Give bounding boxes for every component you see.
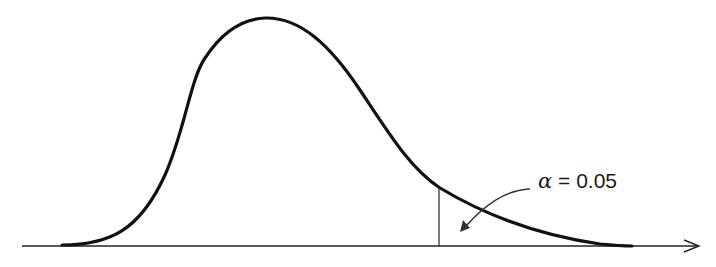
density-curve [62, 18, 632, 246]
alpha-value: 0.05 [576, 169, 617, 192]
distribution-diagram [0, 0, 716, 267]
alpha-annotation: α = 0.05 [538, 169, 617, 193]
alpha-symbol: α [538, 169, 552, 193]
equals-sign: = [552, 169, 576, 192]
annotation-arrowhead-icon [460, 220, 470, 232]
